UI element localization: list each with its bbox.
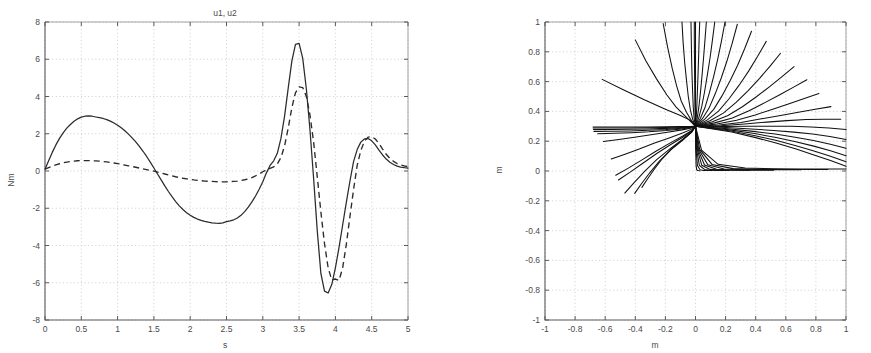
x-tick-label: 4.5	[366, 324, 378, 334]
x-tick-label: 5	[406, 324, 411, 334]
left-chart-title: u1, u2	[213, 8, 237, 18]
y-tick-label: -8	[32, 315, 40, 325]
chart-panel-right: -1-0.8-0.6-0.4-0.200.20.40.60.81 -1-0.8-…	[440, 0, 871, 353]
y-tick-label: -0.6	[525, 255, 540, 265]
left-y-tick-labels: -8-6-4-202468	[32, 17, 40, 325]
series-traj-r19	[696, 107, 831, 127]
left-x-tick-labels: 00.511.522.533.544.55	[43, 324, 411, 334]
left-data-series	[45, 43, 408, 293]
chart-panel-left: 00.511.522.533.544.55 -8-6-4-202468 u1, …	[0, 0, 440, 353]
series-traj-r26	[696, 126, 847, 166]
y-tick-label: 0.6	[528, 77, 540, 87]
right-y-tick-labels: -1-0.8-0.6-0.4-0.200.20.40.60.81	[525, 17, 540, 325]
y-tick-label: 4	[35, 92, 40, 102]
x-tick-label: -0.6	[598, 324, 613, 334]
x-tick-label: 0.6	[780, 324, 792, 334]
x-tick-label: 0	[43, 324, 48, 334]
series-traj-r08	[696, 22, 700, 126]
left-x-axis-label: s	[223, 340, 227, 350]
y-tick-label: 1	[535, 17, 540, 27]
series-traj-r27	[696, 126, 847, 169]
y-tick-label: 0	[535, 166, 540, 176]
right-y-axis-label: m	[494, 166, 504, 173]
right-x-tick-labels: -1-0.8-0.6-0.4-0.200.20.40.60.81	[541, 324, 848, 334]
x-tick-label: 2.5	[221, 324, 233, 334]
y-tick-label: -0.4	[525, 226, 540, 236]
left-chart-svg: 00.511.522.533.544.55 -8-6-4-202468 u1, …	[0, 0, 440, 353]
y-tick-label: -4	[32, 241, 40, 251]
left-gridlines	[45, 22, 408, 320]
y-tick-label: 8	[35, 17, 40, 27]
x-tick-label: -1	[541, 324, 549, 334]
y-tick-label: 0.4	[528, 106, 540, 116]
x-tick-label: 1.5	[148, 324, 160, 334]
right-data-series	[593, 22, 846, 193]
x-tick-label: -0.8	[568, 324, 583, 334]
x-tick-label: 0.4	[750, 324, 762, 334]
series-u1	[45, 43, 408, 293]
x-tick-label: 4	[333, 324, 338, 334]
x-tick-label: 0.2	[720, 324, 732, 334]
series-traj-r25	[696, 126, 847, 161]
y-tick-label: -0.8	[525, 285, 540, 295]
y-tick-label: 0	[35, 166, 40, 176]
x-tick-label: 3	[260, 324, 265, 334]
x-tick-label: 1	[115, 324, 120, 334]
y-tick-label: -1	[532, 315, 540, 325]
right-chart-svg: -1-0.8-0.6-0.4-0.200.20.40.60.81 -1-0.8-…	[440, 0, 871, 353]
right-x-axis-label: m	[651, 340, 658, 350]
x-tick-label: 1	[844, 324, 849, 334]
x-tick-label: 3.5	[293, 324, 305, 334]
series-traj-r11	[696, 22, 726, 126]
left-y-axis-label: Nm	[6, 173, 16, 186]
y-tick-label: 6	[35, 54, 40, 64]
x-tick-label: 0	[693, 324, 698, 334]
x-tick-label: 0.8	[810, 324, 822, 334]
x-tick-label: -0.4	[628, 324, 643, 334]
y-tick-label: -2	[32, 203, 40, 213]
x-tick-label: 2	[188, 324, 193, 334]
y-tick-label: -6	[32, 278, 40, 288]
y-tick-label: 2	[35, 129, 40, 139]
y-tick-label: -0.2	[525, 196, 540, 206]
y-tick-label: 0.8	[528, 47, 540, 57]
y-tick-label: 0.2	[528, 136, 540, 146]
x-tick-label: -0.2	[658, 324, 673, 334]
x-tick-label: 0.5	[75, 324, 87, 334]
